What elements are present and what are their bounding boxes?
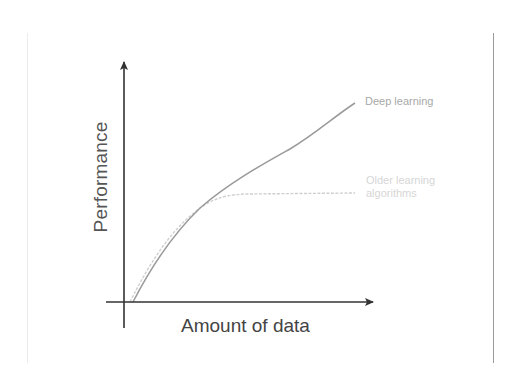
- deep-learning-curve: [133, 103, 355, 302]
- older-algorithms-label-line1: Older learning: [366, 174, 435, 187]
- older-algorithms-curve: [130, 193, 355, 302]
- older-algorithms-label: Older learning algorithms: [366, 174, 435, 200]
- y-axis-label: Performance: [90, 122, 112, 233]
- older-algorithms-label-line2: algorithms: [366, 187, 435, 200]
- x-axis-label: Amount of data: [181, 315, 310, 337]
- deep-learning-label: Deep learning: [365, 95, 434, 108]
